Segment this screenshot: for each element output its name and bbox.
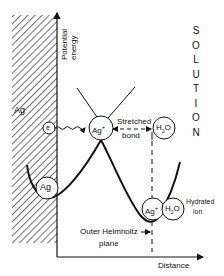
solution-letter: L bbox=[189, 53, 203, 68]
solution-letter: U bbox=[189, 68, 203, 83]
hydrated-label: Hydrated bbox=[186, 198, 214, 205]
water-bottom-o: O bbox=[174, 204, 180, 213]
transition-ion-label: Ag+ bbox=[92, 124, 105, 135]
solution-label: S O L U T I O N bbox=[189, 24, 203, 140]
water-top-label: H2O bbox=[156, 124, 171, 134]
x-axis-label: Distance bbox=[158, 262, 189, 270]
water-top-o: O bbox=[165, 123, 171, 132]
solution-letter: I bbox=[189, 97, 203, 112]
hydrated-ion-charge: + bbox=[155, 205, 159, 211]
solution-letter: O bbox=[189, 111, 203, 126]
surface-atom-label: Ag bbox=[40, 183, 51, 192]
y-axis-label-line2: energy bbox=[69, 12, 78, 60]
hydrated-ion-symbol: Ag bbox=[145, 207, 155, 216]
y-axis-label: Potential energy bbox=[60, 12, 84, 60]
potential-energy-diagram: Potential energy Distance Ag S O L U T I… bbox=[0, 0, 224, 276]
metal-region-label: Ag bbox=[14, 106, 25, 115]
transition-ion-charge: + bbox=[102, 124, 106, 130]
solution-letter: S bbox=[189, 24, 203, 39]
bond-label: bond bbox=[122, 132, 140, 140]
ohp-label-line2: plane bbox=[99, 240, 119, 248]
hydrated-ion-label: Ag+ bbox=[145, 205, 158, 216]
y-axis-label-line1: Potential bbox=[60, 12, 69, 60]
electron-label: e bbox=[46, 124, 50, 131]
solution-letter: T bbox=[189, 82, 203, 97]
solution-letter: O bbox=[189, 39, 203, 54]
stretched-label: Stretched bbox=[117, 118, 151, 126]
solution-letter: N bbox=[189, 126, 203, 141]
crossing-lines bbox=[77, 87, 135, 118]
water-bottom-label: H2O bbox=[165, 205, 180, 215]
transition-ion-symbol: Ag bbox=[92, 126, 102, 135]
ion-label: ion bbox=[193, 208, 202, 215]
ohp-label-line1: Outer Helmholtz bbox=[80, 228, 138, 236]
electron-transfer-wavy-arrow bbox=[55, 127, 85, 130]
